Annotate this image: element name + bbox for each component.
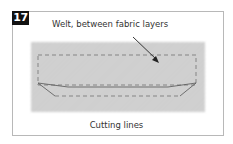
welt-label: Welt, between fabric layers (52, 19, 168, 29)
step-number-badge: 17 (12, 11, 29, 25)
fabric-area (31, 42, 205, 112)
cutting-lines-label: Cutting lines (0, 120, 233, 130)
